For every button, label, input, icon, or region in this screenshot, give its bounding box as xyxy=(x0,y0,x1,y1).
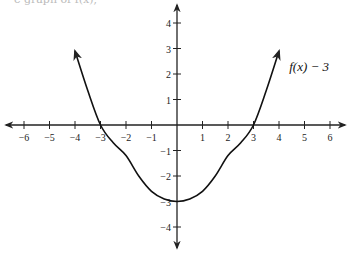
y-tick-label: 3 xyxy=(166,44,171,55)
function-graph: −6−5−4−3−2−1123456−4−3−2−11234 f(x) − 3 xyxy=(0,0,358,259)
x-tick-label: −5 xyxy=(44,132,55,143)
x-tick-label: 2 xyxy=(226,132,231,143)
y-tick-label: 4 xyxy=(166,18,171,29)
y-tick-label: −4 xyxy=(160,222,171,233)
y-tick-label: 1 xyxy=(166,95,171,106)
x-tick-label: −4 xyxy=(70,132,81,143)
x-tick-label: 3 xyxy=(251,132,256,143)
x-tick-label: −1 xyxy=(146,132,157,143)
y-tick-label: −1 xyxy=(160,146,171,157)
y-tick-label: −2 xyxy=(160,171,171,182)
x-tick-label: 4 xyxy=(277,132,282,143)
x-tick-label: −2 xyxy=(121,132,132,143)
labels: f(x) − 3 xyxy=(289,59,329,74)
x-tick-label: 1 xyxy=(200,132,205,143)
x-tick-label: 6 xyxy=(328,132,333,143)
function-label: f(x) − 3 xyxy=(289,59,329,74)
y-tick-label: 2 xyxy=(166,69,171,80)
x-tick-label: 5 xyxy=(302,132,307,143)
x-tick-label: −6 xyxy=(19,132,30,143)
x-tick-label: −3 xyxy=(95,132,106,143)
axes xyxy=(6,5,345,248)
